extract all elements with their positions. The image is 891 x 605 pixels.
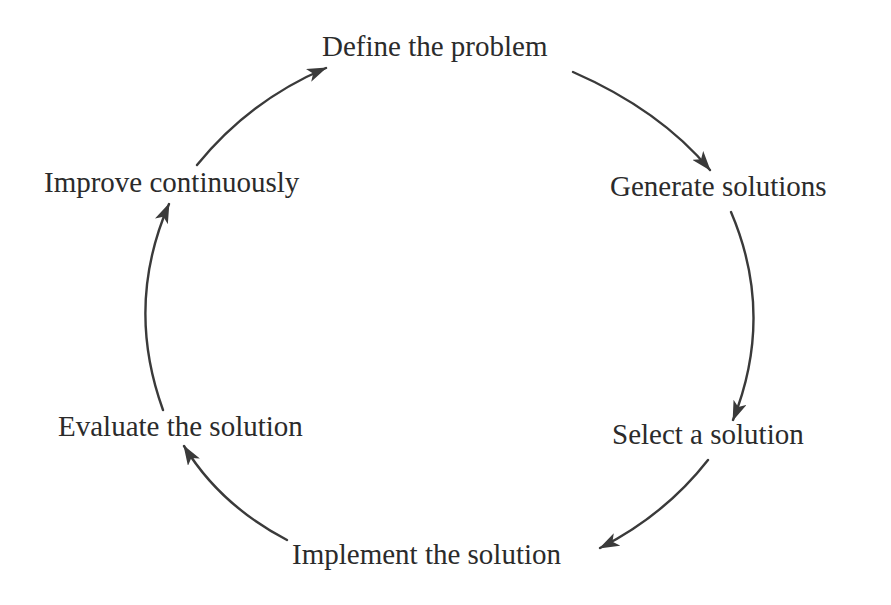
node-evaluate-the-solution: Evaluate the solution xyxy=(58,412,303,441)
arrow-generate-to-select xyxy=(731,212,754,420)
node-improve-continuously: Improve continuously xyxy=(44,168,299,197)
arrow-evaluate-to-improve xyxy=(145,204,169,410)
cycle-arrows xyxy=(0,0,891,605)
arrow-select-to-implement xyxy=(600,460,708,548)
arrow-define-to-generate xyxy=(573,72,710,170)
node-implement-the-solution: Implement the solution xyxy=(292,540,561,569)
node-generate-solutions: Generate solutions xyxy=(610,172,827,201)
arrow-improve-to-define xyxy=(197,68,326,165)
arrow-implement-to-evaluate xyxy=(184,446,287,540)
node-define-the-problem: Define the problem xyxy=(322,32,547,61)
node-select-a-solution: Select a solution xyxy=(612,420,804,449)
problem-solving-cycle-diagram: Define the problem Generate solutions Se… xyxy=(0,0,891,605)
